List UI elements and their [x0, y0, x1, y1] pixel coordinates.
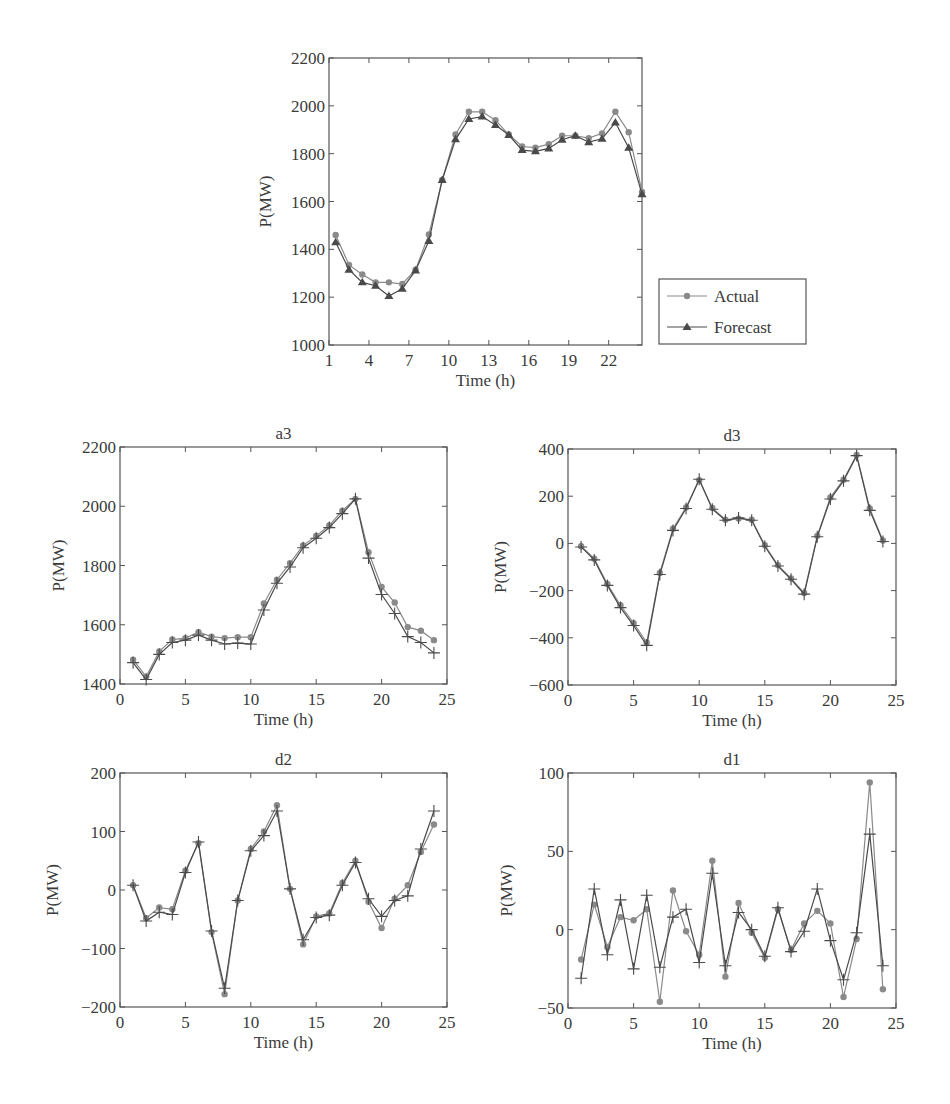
series-forecast [575, 828, 889, 986]
plus-marker-icon [719, 960, 731, 972]
series-actual [578, 779, 886, 1005]
x-axis-label: Time (h) [254, 710, 313, 729]
chart-title: a3 [275, 424, 291, 443]
plus-marker-icon [864, 504, 876, 516]
x-tick-label: 20 [822, 1014, 839, 1033]
y-tick-label: −50 [537, 999, 564, 1018]
plus-marker-icon [877, 960, 889, 972]
y-tick-label: 2000 [82, 497, 116, 516]
x-tick-label: 25 [439, 690, 456, 709]
y-tick-label: 2000 [291, 97, 325, 116]
y-axis-label: P(MW) [43, 864, 62, 916]
circle-marker-icon [431, 821, 437, 827]
x-tick-label: 19 [560, 351, 577, 370]
chart-title: d2 [275, 750, 292, 769]
plus-marker-icon [428, 805, 440, 817]
x-tick-label: 10 [242, 690, 259, 709]
circle-marker-icon [378, 925, 384, 931]
plus-marker-icon [693, 957, 705, 969]
circle-marker-icon [709, 858, 715, 864]
x-tick-label: 7 [405, 351, 414, 370]
series-actual [130, 802, 437, 997]
y-axis-label: P(MW) [49, 540, 68, 592]
triangle-marker-icon [638, 190, 647, 198]
circle-marker-icon [880, 986, 886, 992]
circle-marker-icon [431, 637, 437, 643]
circle-marker-icon [630, 917, 636, 923]
chart-d2: 0510152025−200−1000100200Time (h)P(MW)d2 [43, 750, 456, 1052]
plus-marker-icon [733, 512, 745, 524]
x-tick-label: 25 [888, 1014, 905, 1033]
x-tick-label: 5 [181, 1013, 190, 1032]
plus-marker-icon [402, 631, 414, 643]
y-tick-label: 200 [539, 487, 565, 506]
y-tick-label: 0 [556, 534, 565, 553]
x-tick-label: 15 [308, 1013, 325, 1032]
x-tick-label: 25 [888, 691, 905, 710]
circle-marker-icon [684, 293, 690, 299]
x-tick-label: 5 [629, 1014, 638, 1033]
plus-marker-icon [232, 637, 244, 649]
y-tick-label: 1800 [291, 145, 325, 164]
circle-marker-icon [827, 920, 833, 926]
plus-marker-icon [336, 879, 348, 891]
x-tick-label: 25 [439, 1013, 456, 1032]
y-tick-label: 1400 [291, 240, 325, 259]
plus-marker-icon [851, 450, 863, 462]
plus-marker-icon [785, 946, 797, 958]
circle-marker-icon [405, 624, 411, 630]
circle-marker-icon [359, 271, 365, 277]
y-tick-label: 1400 [82, 675, 116, 694]
chart-d1: 0510152025−50050100Time (h)P(MW)d1 [497, 750, 905, 1053]
plus-marker-icon [746, 924, 758, 936]
circle-marker-icon [332, 232, 338, 238]
plus-marker-icon [877, 536, 889, 548]
plot-frame [568, 449, 896, 685]
chart-a3: 051015202514001600180020002200Time (h)P(… [49, 424, 456, 729]
plus-marker-icon [851, 927, 863, 939]
x-tick-label: 0 [116, 1013, 125, 1032]
plus-marker-icon [798, 925, 810, 937]
circle-marker-icon [625, 129, 631, 135]
y-axis-label: P(MW) [256, 176, 275, 228]
figure-canvas: 1471013161922100012001400160018002000220… [0, 0, 950, 1104]
plus-marker-icon [811, 883, 823, 895]
triangle-marker-icon [384, 291, 393, 299]
plus-marker-icon [601, 579, 613, 591]
plus-marker-icon [376, 589, 388, 601]
y-tick-label: −100 [81, 940, 116, 959]
plus-marker-icon [667, 524, 679, 536]
y-tick-label: −200 [529, 582, 564, 601]
triangle-marker-icon [438, 175, 447, 183]
y-tick-label: 0 [108, 881, 117, 900]
chart-d3: 0510152025−600−400−2000200400Time (h)P(M… [491, 426, 905, 730]
plus-marker-icon [219, 982, 231, 994]
circle-marker-icon [670, 887, 676, 893]
circle-marker-icon [612, 109, 618, 115]
plus-marker-icon [140, 915, 152, 927]
circle-marker-icon [840, 994, 846, 1000]
plus-marker-icon [284, 561, 296, 573]
plus-marker-icon [127, 879, 139, 891]
plus-marker-icon [192, 629, 204, 641]
y-tick-label: −600 [529, 676, 564, 695]
plus-marker-icon [680, 502, 692, 514]
plus-marker-icon [363, 893, 375, 905]
series-actual [332, 109, 645, 288]
y-tick-label: 1000 [291, 336, 325, 355]
plus-marker-icon [628, 963, 640, 975]
y-tick-label: 100 [539, 764, 565, 783]
triangle-marker-icon [571, 131, 580, 139]
plus-marker-icon [219, 638, 231, 650]
plus-marker-icon [588, 883, 600, 895]
x-tick-label: 10 [691, 691, 708, 710]
y-tick-label: 2200 [82, 438, 116, 457]
plus-marker-icon [271, 805, 283, 817]
x-tick-label: 1 [325, 351, 334, 370]
plus-marker-icon [680, 903, 692, 915]
x-tick-label: 5 [181, 690, 190, 709]
circle-marker-icon [722, 973, 728, 979]
x-tick-label: 20 [373, 690, 390, 709]
circle-marker-icon [617, 914, 623, 920]
chart-title: d3 [724, 426, 741, 445]
